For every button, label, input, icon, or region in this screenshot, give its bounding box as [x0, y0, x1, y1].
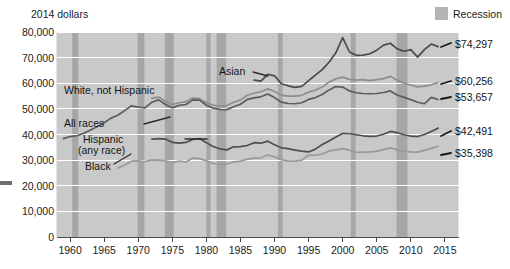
series-label-white: White, not Hispanic — [64, 85, 154, 97]
x-tick-label: 1985 — [229, 244, 252, 256]
x-tick-label: 1970 — [127, 244, 150, 256]
x-axis-ticks: 1960196519701975198019851990199520002005… — [0, 0, 510, 269]
x-tick-label: 1960 — [58, 244, 81, 256]
series-label-black: Black — [85, 161, 111, 173]
x-tick-label: 2000 — [331, 244, 354, 256]
value-label-hispanic: $42,491 — [455, 125, 493, 137]
x-tick-label: 1965 — [93, 244, 116, 256]
x-tick-label: 2010 — [399, 244, 422, 256]
value-label-white: $60,256 — [455, 75, 493, 87]
series-label-allraces: All races — [64, 118, 104, 130]
value-label-allraces: $53,657 — [455, 91, 493, 103]
x-tick-label: 1980 — [195, 244, 218, 256]
chart-figure: 2014 dollars Recession 010,00020,00030,0… — [0, 0, 510, 269]
x-tick-label: 2015 — [433, 244, 456, 256]
x-tick-label: 1975 — [161, 244, 184, 256]
series-label-asian: Asian — [219, 66, 245, 78]
value-label-asian: $74,297 — [455, 38, 493, 50]
series-label-hispanic2: (any race) — [78, 145, 125, 157]
x-tick-label: 2005 — [365, 244, 388, 256]
x-tick-label: 1990 — [263, 244, 286, 256]
x-tick-label: 1995 — [297, 244, 320, 256]
value-label-black: $35,398 — [455, 147, 493, 159]
